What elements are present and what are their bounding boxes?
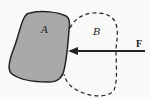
free-body-diagram: A B F [0, 0, 150, 99]
label-body-a: A [41, 24, 48, 35]
diagram-canvas [0, 0, 150, 99]
body-a-shape [9, 12, 70, 82]
body-b-outline [64, 13, 117, 96]
force-arrowhead-icon [68, 47, 78, 55]
label-force: F [136, 38, 142, 49]
label-body-b: B [93, 26, 100, 37]
